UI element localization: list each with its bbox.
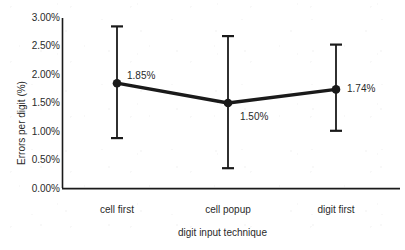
data-label-digit-first: 1.74% [347,84,375,94]
data-point-marker-digit-first [332,85,341,94]
x-tick-label-cell-popup: cell popup [178,205,278,215]
x-tick-label-cell-first: cell first [67,205,167,215]
x-axis-title: digit input technique [20,228,405,238]
data-point-marker-cell-popup [224,99,233,108]
data-point-marker-cell-first [113,79,122,88]
chart-figure: 3.00% 2.50% 2.00% 1.50% 1.00% 0.50% 0.00… [0,0,405,250]
data-label-cell-popup: 1.50% [240,112,268,122]
data-label-cell-first: 1.85% [127,71,155,81]
x-tick-label-digit-first: digit first [286,205,386,215]
